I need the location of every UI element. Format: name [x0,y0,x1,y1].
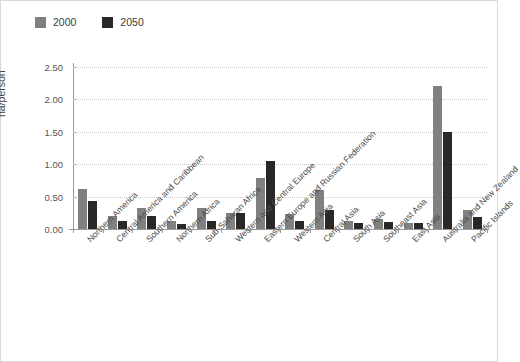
x-axis-tick-mark [162,229,163,233]
y-axis-tick-label: 0.00 [45,224,64,235]
y-axis-tick-label: 2.00 [45,94,64,105]
y-axis: 0.000.501.001.502.002.50 [1,1,73,301]
y-axis-tick-label: 0.50 [45,191,64,202]
y-axis-tick-label: 1.00 [45,159,64,170]
legend-swatch-2050 [102,17,113,28]
x-axis-tick-mark [221,229,222,233]
bar-group [73,67,103,229]
x-axis-tick-mark [398,229,399,233]
legend-item-2050: 2050 [102,17,143,28]
x-axis-tick-mark [310,229,311,233]
bar-2000 [433,86,442,229]
legend-label-2050: 2050 [120,17,143,28]
x-axis-tick-mark [487,229,488,233]
x-axis-tick-mark [457,229,458,233]
x-axis-tick-mark [280,229,281,233]
x-axis-tick-mark [339,229,340,233]
bar-2050 [443,132,452,229]
x-axis-tick-mark [250,229,251,233]
x-axis-tick-mark [73,229,74,233]
y-axis-tick-label: 2.50 [45,62,64,73]
bar-2000 [78,189,87,229]
bar-group [428,67,458,229]
x-axis-tick-mark [103,229,104,233]
bar-group [369,67,399,229]
x-axis-tick-mark [369,229,370,233]
x-axis-tick-mark [132,229,133,233]
x-axis-tick-mark [428,229,429,233]
x-axis-tick-mark [191,229,192,233]
y-axis-tick-label: 1.50 [45,126,64,137]
